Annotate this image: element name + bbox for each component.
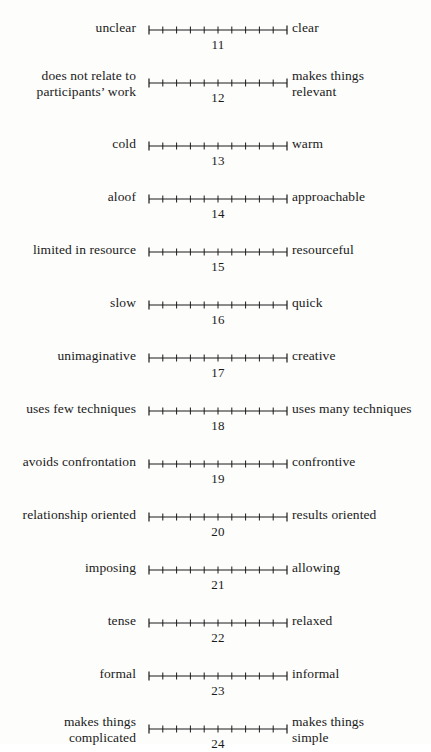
anchor-label-left: imposing bbox=[0, 560, 142, 576]
rating-scale-graphic[interactable] bbox=[148, 668, 288, 684]
anchor-label-right: warm bbox=[292, 136, 431, 152]
scale-item-row: relationship oriented20results oriented bbox=[0, 495, 431, 548]
anchor-label-left: does not relate to participants’ work bbox=[0, 68, 142, 99]
item-number: 16 bbox=[148, 312, 288, 328]
anchor-label-left: tense bbox=[0, 613, 142, 629]
rating-scale-graphic[interactable] bbox=[148, 403, 288, 419]
rating-scale-graphic[interactable] bbox=[148, 721, 288, 737]
rating-scale-graphic[interactable] bbox=[148, 562, 288, 578]
scale-item-row: unclear11clear bbox=[0, 8, 431, 61]
item-number: 22 bbox=[148, 630, 288, 646]
item-number: 13 bbox=[148, 153, 288, 169]
scale-item-row: aloof14approachable bbox=[0, 177, 431, 230]
scale-item-row: tense22relaxed bbox=[0, 601, 431, 654]
scale-item-row: limited in resource15resourceful bbox=[0, 230, 431, 283]
scale-item-row: uses few techniques18uses many technique… bbox=[0, 389, 431, 442]
rating-scale-graphic[interactable] bbox=[148, 509, 288, 525]
scale-item-row: cold13warm bbox=[0, 124, 431, 177]
anchor-label-right: uses many techniques bbox=[292, 401, 431, 417]
item-number: 21 bbox=[148, 577, 288, 593]
rating-scale-graphic[interactable] bbox=[148, 615, 288, 631]
rating-scale-graphic[interactable] bbox=[148, 75, 288, 91]
anchor-label-right: resourceful bbox=[292, 242, 431, 258]
anchor-label-right: approachable bbox=[292, 189, 431, 205]
scale-item-row: unimaginative17creative bbox=[0, 336, 431, 389]
anchor-label-left: unclear bbox=[0, 20, 142, 36]
anchor-label-left: makes things complicated bbox=[0, 714, 142, 745]
item-number: 17 bbox=[148, 365, 288, 381]
scale-item-row: makes things complicated24makes things s… bbox=[0, 707, 431, 752]
anchor-label-left: relationship oriented bbox=[0, 507, 142, 523]
item-number: 15 bbox=[148, 259, 288, 275]
item-number: 20 bbox=[148, 524, 288, 540]
anchor-label-left: avoids confrontation bbox=[0, 454, 142, 470]
scale-item-row: avoids confrontation19confrontive bbox=[0, 442, 431, 495]
anchor-label-left: slow bbox=[0, 295, 142, 311]
anchor-label-left: unimaginative bbox=[0, 348, 142, 364]
anchor-label-left: uses few techniques bbox=[0, 401, 142, 417]
anchor-label-left: cold bbox=[0, 136, 142, 152]
rating-scale-graphic[interactable] bbox=[148, 22, 288, 38]
item-number: 14 bbox=[148, 206, 288, 222]
anchor-label-right: clear bbox=[292, 20, 431, 36]
rating-scale-graphic[interactable] bbox=[148, 138, 288, 154]
anchor-label-right: allowing bbox=[292, 560, 431, 576]
item-number: 18 bbox=[148, 418, 288, 434]
anchor-label-right: makes things simple bbox=[292, 714, 431, 745]
anchor-label-right: quick bbox=[292, 295, 431, 311]
scale-item-row: formal23informal bbox=[0, 654, 431, 707]
rating-scale-graphic[interactable] bbox=[148, 350, 288, 366]
anchor-label-left: aloof bbox=[0, 189, 142, 205]
item-number: 11 bbox=[148, 37, 288, 53]
scale-item-row: slow16quick bbox=[0, 283, 431, 336]
anchor-label-left: limited in resource bbox=[0, 242, 142, 258]
rating-scale-graphic[interactable] bbox=[148, 297, 288, 313]
anchor-label-right: confrontive bbox=[292, 454, 431, 470]
item-number: 12 bbox=[148, 90, 288, 106]
item-number: 23 bbox=[148, 683, 288, 699]
anchor-label-right: informal bbox=[292, 666, 431, 682]
rating-scale-graphic[interactable] bbox=[148, 456, 288, 472]
rating-scale-graphic[interactable] bbox=[148, 191, 288, 207]
scale-item-row: does not relate to participants’ work12m… bbox=[0, 61, 431, 124]
item-number: 19 bbox=[148, 471, 288, 487]
anchor-label-right: makes things relevant bbox=[292, 68, 431, 99]
anchor-label-right: results oriented bbox=[292, 507, 431, 523]
item-number: 24 bbox=[148, 736, 288, 752]
scale-item-row: imposing21allowing bbox=[0, 548, 431, 601]
rating-scale-graphic[interactable] bbox=[148, 244, 288, 260]
anchor-label-right: relaxed bbox=[292, 613, 431, 629]
anchor-label-right: creative bbox=[292, 348, 431, 364]
anchor-label-left: formal bbox=[0, 666, 142, 682]
